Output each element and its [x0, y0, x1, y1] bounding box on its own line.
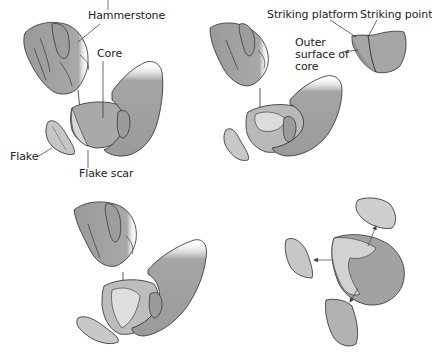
leader-hammerstone	[78, 24, 100, 42]
label-striking-platform: Striking platform	[267, 9, 358, 21]
label-flake: Flake	[10, 151, 38, 163]
flake-left	[285, 238, 312, 278]
label-hammerstone: Hammerstone	[88, 10, 165, 22]
label-striking-point: Striking point	[360, 9, 432, 21]
striking-platform-inset	[352, 31, 406, 73]
flake-bottom	[325, 299, 357, 346]
panel-1	[24, 22, 163, 168]
hammer-hand-2	[210, 23, 268, 86]
panel-3	[74, 202, 207, 344]
hammer-hand	[24, 22, 89, 94]
hammer-hand-3	[74, 202, 136, 266]
label-flake-scar: Flake scar	[79, 168, 133, 180]
label-core: Core	[97, 48, 122, 60]
leader-flake	[37, 148, 52, 157]
flake-top	[356, 198, 396, 229]
label-outer-surface: Outer surface of core	[295, 37, 355, 73]
flake-stone-2	[224, 129, 249, 161]
panel-4	[285, 198, 404, 346]
leader-striking-platform	[330, 20, 356, 37]
